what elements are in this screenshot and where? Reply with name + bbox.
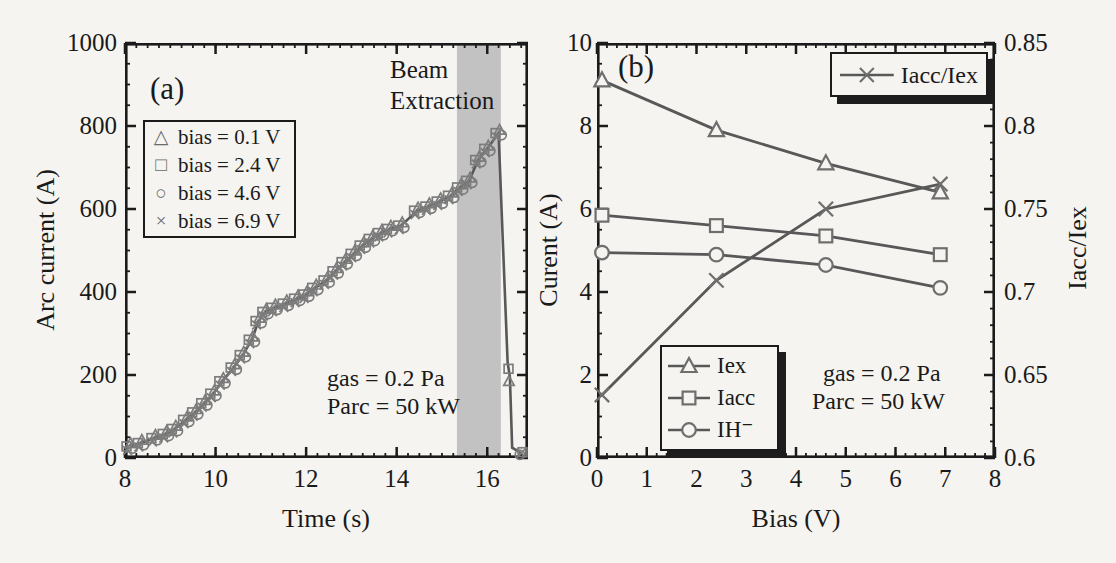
legend-item-triangle: △bias = 0.1 V xyxy=(151,124,288,150)
beam-extraction-line2: Extraction xyxy=(390,85,494,116)
chart-a-y-tick-600: 600 xyxy=(47,196,117,222)
chart-b-power-condition: Parc = 50 kW xyxy=(812,387,945,415)
chart-a-x-axis-label: Time (s) xyxy=(246,504,406,534)
chart-a-y-axis-label: Arc current (A) xyxy=(31,100,61,400)
circle-marker xyxy=(595,246,609,260)
legend-item-triangle: Iex xyxy=(668,352,771,380)
chart-b-right-tick-0.85: 0.85 xyxy=(1004,30,1074,56)
legend-item-label: IH⁻ xyxy=(717,416,753,444)
legend-item-label: bias = 6.9 V xyxy=(178,208,280,234)
chart-a-x-tick-10: 10 xyxy=(186,466,246,492)
circle-marker xyxy=(682,423,696,437)
x-marker-icon xyxy=(840,65,894,85)
chart-b-y-tick-10: 10 xyxy=(552,30,592,56)
circle-marker-icon: ○ xyxy=(151,181,171,205)
circle-marker xyxy=(710,248,724,262)
x-marker xyxy=(595,388,609,402)
square-marker-icon xyxy=(668,388,710,408)
legend-item-label: bias = 0.1 V xyxy=(178,124,280,150)
x-marker-icon: × xyxy=(151,209,171,233)
chart-b-y-tick-4: 4 xyxy=(552,279,592,305)
chart-b-current-legend: IexIaccIH⁻ xyxy=(660,345,779,451)
legend-item-label: Iacc xyxy=(717,384,755,412)
square-marker xyxy=(596,209,609,222)
legend-item-square: □bias = 2.4 V xyxy=(151,152,288,178)
triangle-marker-icon: △ xyxy=(151,125,171,149)
triangle-marker-icon xyxy=(668,356,710,376)
square-marker xyxy=(819,230,832,243)
chart-a-x-tick-16: 16 xyxy=(457,466,517,492)
chart-a-power-condition: Parc = 50 kW xyxy=(327,392,460,420)
chart-a-conditions: gas = 0.2 Pa Parc = 50 kW xyxy=(327,364,460,420)
chart-b-gas-condition: gas = 0.2 Pa xyxy=(823,359,945,387)
chart-a-panel-label: (a) xyxy=(150,72,184,106)
legend-item-square: Iacc xyxy=(668,384,771,412)
circle-marker xyxy=(933,281,947,295)
chart-b-y-axis-label: Curent (A) xyxy=(534,100,564,400)
legend-item-label: bias = 2.4 V xyxy=(178,152,280,178)
chart-b-right-tick-0.6: 0.6 xyxy=(1004,445,1074,471)
figure-two-panel-chart: (a) △bias = 0.1 V□bias = 2.4 V○bias = 4.… xyxy=(0,0,1116,563)
beam-extraction-line1: Beam xyxy=(390,54,494,85)
legend-item-x: Iacc/Iex xyxy=(840,61,978,89)
chart-b-y-tick-6: 6 xyxy=(552,196,592,222)
square-marker-icon: □ xyxy=(151,153,171,177)
legend-item-label: Iacc/Iex xyxy=(901,61,978,89)
chart-b-x-axis-label: Bias (V) xyxy=(716,504,876,534)
legend-item-label: Iex xyxy=(717,352,746,380)
chart-b-right-tick-0.75: 0.75 xyxy=(1004,196,1074,222)
chart-b-panel-label: (b) xyxy=(618,50,654,84)
legend-item-circle: ○bias = 4.6 V xyxy=(151,180,288,206)
chart-a-y-tick-0: 0 xyxy=(47,445,117,471)
chart-a-y-tick-1000: 1000 xyxy=(47,30,117,56)
beam-extraction-label: Beam Extraction xyxy=(390,54,494,116)
chart-a-x-tick-14: 14 xyxy=(367,466,427,492)
chart-b-ratio-legend: Iacc/Iex xyxy=(830,52,988,97)
chart-b-right-tick-0.7: 0.7 xyxy=(1004,279,1074,305)
legend-item-label: bias = 4.6 V xyxy=(178,180,280,206)
chart-a-x-tick-12: 12 xyxy=(276,466,336,492)
chart-a-y-tick-800: 800 xyxy=(47,113,117,139)
circle-marker-icon xyxy=(668,420,710,440)
chart-a-gas-condition: gas = 0.2 Pa xyxy=(327,364,460,392)
chart-b-right-tick-0.65: 0.65 xyxy=(1004,362,1074,388)
chart-a-y-tick-400: 400 xyxy=(47,279,117,305)
chart-b-right-axis-label: Iacc/Iex xyxy=(1063,98,1093,398)
chart-a-y-tick-200: 200 xyxy=(47,362,117,388)
square-marker xyxy=(710,219,723,232)
square-marker xyxy=(934,248,947,261)
square-marker xyxy=(683,392,696,405)
triangle-marker xyxy=(594,72,609,86)
x-marker xyxy=(709,273,723,287)
chart-a-legend: △bias = 0.1 V□bias = 2.4 V○bias = 4.6 V×… xyxy=(143,120,296,238)
chart-b-right-tick-0.8: 0.8 xyxy=(1004,113,1074,139)
chart-b-y-tick-0: 0 xyxy=(552,445,592,471)
chart-b-y-tick-2: 2 xyxy=(552,362,592,388)
chart-b-conditions: gas = 0.2 Pa Parc = 50 kW xyxy=(812,359,945,415)
legend-item-x: ×bias = 6.9 V xyxy=(151,208,288,234)
circle-marker xyxy=(819,258,833,272)
chart-b-y-tick-8: 8 xyxy=(552,113,592,139)
legend-item-circle: IH⁻ xyxy=(668,416,771,444)
